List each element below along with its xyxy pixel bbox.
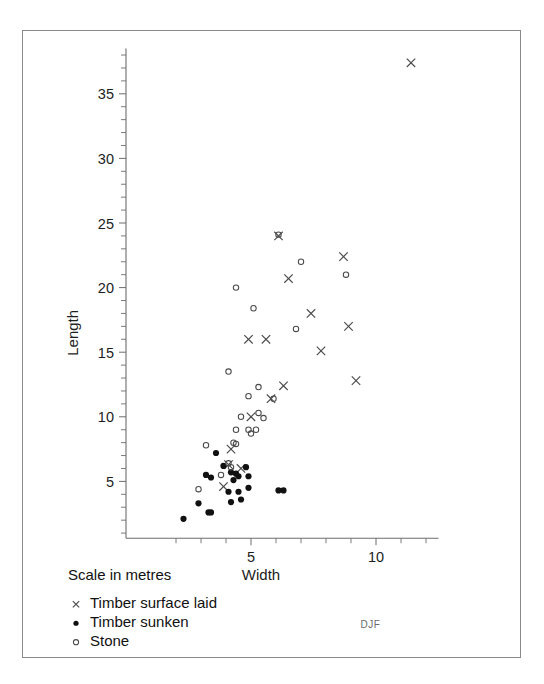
point-filled-circle-marker	[243, 464, 249, 470]
scatter-plot: 5101520253035510WidthLengthScale in metr…	[23, 31, 520, 657]
point-filled-circle-marker	[230, 477, 236, 483]
point-open-circle-marker	[293, 326, 298, 331]
y-tick-label: 5	[106, 474, 114, 490]
point-filled-circle-marker	[208, 509, 214, 515]
point-cross-marker	[317, 347, 325, 355]
point-open-circle-marker	[261, 415, 266, 420]
point-filled-circle-marker	[235, 489, 241, 495]
point-open-circle-marker	[226, 369, 231, 374]
point-open-circle-marker	[233, 427, 238, 432]
point-filled-circle-marker	[195, 500, 201, 506]
point-filled-circle-marker	[245, 473, 251, 479]
y-tick-label: 25	[98, 216, 114, 232]
legend-label: Timber surface laid	[90, 594, 217, 611]
y-tick-label: 35	[98, 86, 114, 102]
point-cross-marker	[262, 335, 270, 343]
point-open-circle-marker	[203, 443, 208, 448]
point-filled-circle-marker	[245, 485, 251, 491]
point-cross-marker	[352, 376, 360, 384]
author-signature: DJF	[361, 619, 381, 630]
x-tick-label: 5	[247, 549, 255, 565]
legend-filled-circle-marker	[73, 621, 78, 626]
point-open-circle-marker	[196, 486, 201, 491]
y-tick-label: 10	[98, 409, 114, 425]
point-cross-marker	[284, 274, 292, 282]
point-cross-marker	[247, 413, 255, 421]
figure-border: 5101520253035510WidthLengthScale in metr…	[22, 30, 521, 658]
point-filled-circle-marker	[203, 472, 209, 478]
point-filled-circle-marker	[213, 450, 219, 456]
x-tick-label: 10	[368, 549, 384, 565]
point-cross-marker	[407, 59, 415, 67]
point-open-circle-marker	[251, 306, 256, 311]
point-filled-circle-marker	[228, 499, 234, 505]
point-filled-circle-marker	[225, 489, 231, 495]
y-tick-label: 20	[98, 280, 114, 296]
point-cross-marker	[279, 382, 287, 390]
y-tick-label: 15	[98, 345, 114, 361]
point-filled-circle-marker	[235, 473, 241, 479]
point-cross-marker	[339, 252, 347, 260]
point-filled-circle-marker	[280, 487, 286, 493]
legend-open-circle-marker	[73, 640, 78, 645]
y-tick-label: 30	[98, 151, 114, 167]
point-open-circle-marker	[238, 414, 243, 419]
scale-note: Scale in metres	[68, 566, 171, 583]
point-open-circle-marker	[233, 285, 238, 290]
point-open-circle-marker	[256, 410, 261, 415]
legend-label: Stone	[90, 632, 129, 649]
y-axis-title: Length	[64, 310, 81, 356]
point-open-circle-marker	[246, 393, 251, 398]
legend-label: Timber sunken	[90, 613, 189, 630]
point-open-circle-marker	[256, 384, 261, 389]
point-cross-marker	[307, 309, 315, 317]
x-axis-title: Width	[242, 566, 280, 583]
point-open-circle-marker	[343, 272, 348, 277]
point-open-circle-marker	[253, 427, 258, 432]
point-cross-marker	[244, 335, 252, 343]
point-open-circle-marker	[218, 472, 223, 477]
point-cross-marker	[344, 322, 352, 330]
point-open-circle-marker	[298, 259, 303, 264]
point-filled-circle-marker	[180, 516, 186, 522]
point-filled-circle-marker	[238, 496, 244, 502]
